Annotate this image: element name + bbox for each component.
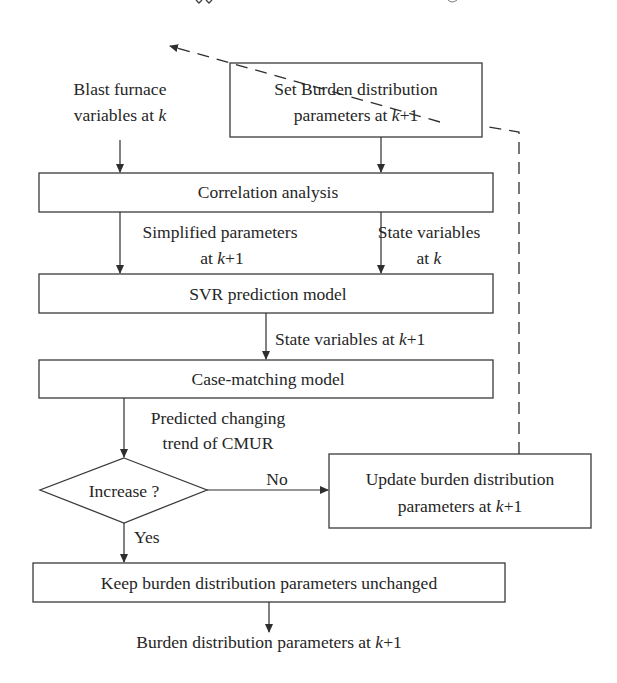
flowchart-canvas: Set Burden distribution parameters at k+… [0, 0, 617, 683]
svg-text:State variables: State variables [378, 222, 481, 242]
set-burden-node[interactable]: Set Burden distribution parameters at k+… [230, 63, 482, 137]
update-burden-node[interactable]: Update burden distribution parameters at… [329, 454, 591, 528]
case-matching-label: Case-matching model [191, 369, 344, 389]
correlation-analysis-node[interactable]: Correlation analysis [39, 173, 493, 212]
yes-label: Yes [134, 527, 160, 547]
top-cutoff-text [196, 0, 457, 3]
update-line2: parameters at k+1 [398, 496, 523, 516]
decision-label: Increase ? [89, 481, 160, 501]
svg-text:Simplified parameters: Simplified parameters [142, 222, 297, 242]
svg-text:at k: at k [417, 248, 443, 268]
set-burden-line2: parameters at k+1 [294, 105, 419, 125]
blast-furnace-input: Blast furnace variables at k [74, 79, 168, 125]
correlation-label: Correlation analysis [198, 182, 339, 202]
svg-text:Predicted changing: Predicted changing [151, 408, 286, 428]
keep-burden-node[interactable]: Keep burden distribution parameters unch… [33, 563, 505, 602]
keep-label: Keep burden distribution parameters unch… [101, 573, 438, 593]
blast-furnace-line2: variables at k [74, 105, 168, 125]
svg-text:at k+1: at k+1 [200, 248, 243, 268]
predicted-trend-label: Predicted changing trend of CMUR [151, 408, 286, 453]
output-label: Burden distribution parameters at k+1 [136, 632, 402, 652]
svg-text:trend of CMUR: trend of CMUR [163, 433, 274, 453]
update-line1: Update burden distribution [366, 469, 555, 489]
blast-furnace-line1: Blast furnace [74, 79, 167, 99]
simplified-params-label: Simplified parameters at k+1 [142, 222, 297, 268]
state-variables-k-label: State variables at k [378, 222, 481, 268]
case-matching-node[interactable]: Case-matching model [39, 360, 493, 398]
no-label: No [266, 469, 288, 489]
svr-label: SVR prediction model [189, 284, 347, 304]
state-variables-k1-label: State variables at k+1 [275, 329, 425, 349]
svr-prediction-node[interactable]: SVR prediction model [39, 274, 493, 313]
increase-decision-node[interactable]: Increase ? [40, 458, 207, 523]
